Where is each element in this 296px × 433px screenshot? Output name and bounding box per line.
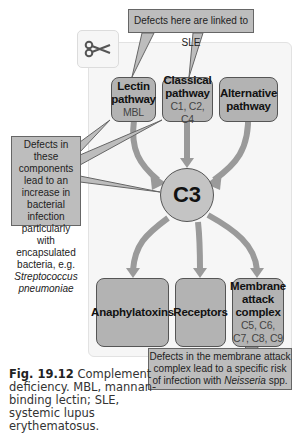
classical-pathway-sub: C1, C2, C4 [163, 100, 212, 126]
receptors-title: Receptors [173, 306, 227, 319]
mac-title: Membrane attack complex [230, 280, 286, 319]
figure-caption: Fig. 19.12 Complement deficiency. MBL, m… [9, 368, 164, 433]
c3-node: C3 [160, 168, 214, 222]
c3-label: C3 [173, 182, 201, 208]
alternative-pathway-title: Alternative pathway [220, 87, 277, 113]
alternative-pathway-node: Alternative pathway [219, 77, 278, 122]
scissors-badge [77, 30, 119, 68]
anaphylatoxins-title: Anaphylatoxins [91, 306, 174, 319]
neisseria-suffix: spp. [269, 375, 288, 386]
classical-pathway-title: Classical pathway [163, 74, 212, 100]
lectin-pathway-node: Lectin pathway MBL [111, 77, 156, 122]
mac-sub: C5, C6, C7, C8, C9 [233, 319, 283, 345]
mac-node: Membrane attack complex C5, C6, C7, C8, … [232, 278, 284, 347]
encapsulated-bacteria-text: Defects in these components lead to an i… [16, 139, 76, 270]
encapsulated-bacteria-callout: Defects in these components lead to an i… [11, 136, 81, 226]
sle-callout: Defects here are linked to SLE [128, 9, 254, 33]
lectin-pathway-sub: MBL [123, 106, 144, 119]
species-name: Streptococcus pneumoniae [14, 271, 77, 294]
scissors-icon [84, 40, 112, 58]
neisseria-species: Neisseria [224, 375, 266, 386]
anaphylatoxins-node: Anaphylatoxins [96, 278, 169, 347]
figure-number: Fig. 19.12 [9, 367, 74, 381]
classical-pathway-node: Classical pathway C1, C2, C4 [162, 77, 213, 122]
lectin-pathway-title: Lectin pathway [111, 80, 156, 106]
neisseria-callout: Defects in the membrane attack complex l… [148, 348, 292, 390]
receptors-node: Receptors [175, 278, 226, 347]
